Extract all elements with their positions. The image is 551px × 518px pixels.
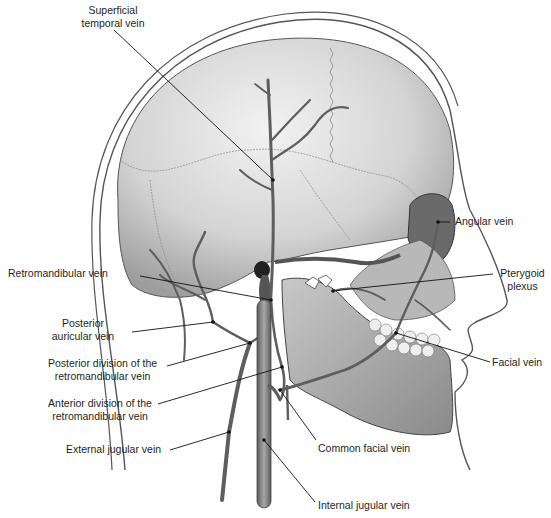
- leader-dot-anterior-division: [280, 365, 284, 369]
- label-line: Common facial vein: [318, 442, 410, 455]
- leader-dot-external-jugular: [227, 430, 231, 434]
- label-line: auricular vein: [38, 330, 128, 343]
- label-line: Retromandibular vein: [8, 267, 108, 280]
- leader-dot-common-facial: [278, 388, 282, 392]
- leader-dot-superficial-temporal: [271, 178, 275, 182]
- label-line: Facial vein: [492, 356, 542, 369]
- label-line: Pterygoid: [495, 267, 550, 280]
- label-external-jugular: External jugular vein: [66, 443, 161, 456]
- label-common-facial: Common facial vein: [318, 442, 410, 455]
- label-line: Posterior: [38, 317, 128, 330]
- leader-external-jugular: [170, 432, 229, 450]
- leader-dot-pterygoid: [331, 289, 335, 293]
- anatomy-figure: Superficialtemporal veinAngular veinPter…: [0, 0, 551, 518]
- skull-illustration: [0, 0, 551, 518]
- label-line: retromandibular vein: [30, 370, 175, 383]
- leader-dot-angular: [436, 220, 440, 224]
- leader-posterior-division: [167, 343, 250, 366]
- leader-dot-retromandibular: [269, 298, 273, 302]
- label-retromandibular: Retromandibular vein: [8, 267, 108, 280]
- label-line: Internal jugular vein: [318, 499, 410, 512]
- label-line: plexus: [495, 280, 550, 293]
- leader-posterior-auricular: [132, 322, 213, 332]
- label-line: retromandibular vein: [30, 410, 170, 423]
- label-facial: Facial vein: [492, 356, 542, 369]
- label-line: Posterior division of the: [30, 357, 175, 370]
- leader-dot-posterior-division: [248, 341, 252, 345]
- leader-dot-internal-jugular: [262, 438, 266, 442]
- leader-dot-facial: [394, 331, 398, 335]
- label-angular: Angular vein: [455, 215, 513, 228]
- label-superficial-temporal: Superficialtemporal vein: [58, 4, 168, 30]
- leader-internal-jugular: [264, 440, 315, 502]
- leader-common-facial: [280, 390, 316, 440]
- label-posterior-division: Posterior division of theretromandibular…: [30, 357, 175, 383]
- label-internal-jugular: Internal jugular vein: [318, 499, 410, 512]
- label-line: Superficial: [58, 4, 168, 17]
- label-pterygoid: Pterygoidplexus: [495, 267, 550, 293]
- label-posterior-auricular: Posteriorauricular vein: [38, 317, 128, 343]
- label-line: Anterior division of the: [30, 397, 170, 410]
- leader-dot-posterior-auricular: [211, 320, 215, 324]
- label-line: Angular vein: [455, 215, 513, 228]
- internal-jugular-vessel: [257, 300, 271, 508]
- label-anterior-division: Anterior division of theretromandibular …: [30, 397, 170, 423]
- label-line: External jugular vein: [66, 443, 161, 456]
- label-line: temporal vein: [58, 17, 168, 30]
